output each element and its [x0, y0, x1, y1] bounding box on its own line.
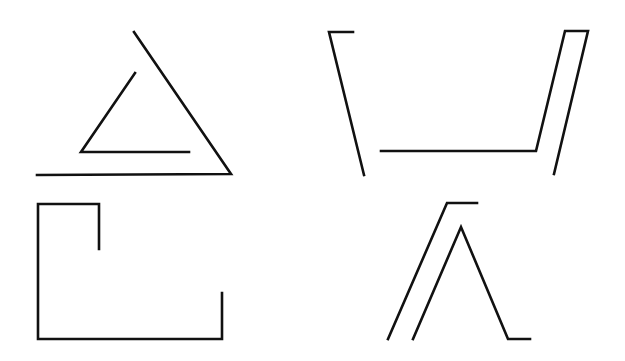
figure-peak-double: [388, 203, 530, 339]
figure-triangle-nested: [37, 32, 231, 175]
outer-triangle-line: [37, 32, 231, 175]
line-figures-diagram: [0, 0, 625, 361]
figure-rectangle-open: [38, 204, 222, 339]
inner-triangle-line: [81, 73, 189, 152]
left-slope-line: [388, 203, 477, 339]
figure-trapezoid-open: [329, 31, 588, 175]
left-bracket-line: [329, 32, 364, 175]
right-hook-line: [381, 31, 588, 174]
bracket-outline: [38, 204, 222, 339]
